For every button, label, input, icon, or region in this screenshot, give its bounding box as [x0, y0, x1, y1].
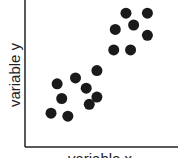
data-point	[46, 108, 57, 119]
data-point	[91, 92, 102, 103]
data-point	[91, 65, 102, 76]
data-point	[56, 93, 67, 104]
data-point	[62, 111, 73, 122]
data-point	[142, 8, 153, 19]
data-point	[81, 83, 92, 94]
data-point	[52, 78, 63, 89]
data-points	[46, 8, 153, 122]
y-axis-label: variable y	[6, 30, 24, 120]
data-point	[120, 8, 131, 19]
data-point	[125, 44, 136, 55]
data-point	[108, 44, 119, 55]
x-axis-label: variable x	[60, 150, 140, 158]
scatter-plot	[0, 0, 182, 158]
data-point	[110, 24, 121, 35]
data-point	[142, 30, 153, 41]
data-point	[70, 72, 81, 83]
data-point	[128, 19, 139, 30]
